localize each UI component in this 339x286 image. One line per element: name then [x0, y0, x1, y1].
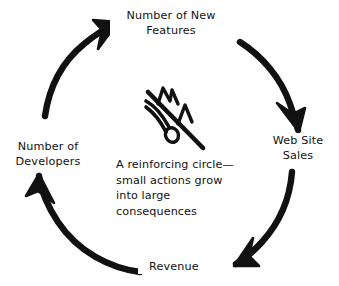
diagram-canvas: Number of New Features Web Site Sales Re… [0, 0, 339, 286]
arrow-developers-to-features [45, 20, 118, 116]
arrow-sales-to-revenue [234, 172, 292, 266]
node-label-number-of-developers: Number of Developers [6, 139, 90, 169]
center-caption: A reinforcing circle— small actions grow… [116, 157, 230, 219]
caption-line-4: consequences [116, 204, 230, 220]
node-label-revenue: Revenue [138, 259, 210, 274]
node-label-web-site-sales: Web Site Sales [262, 133, 334, 163]
arrow-features-to-sales [240, 42, 305, 132]
snowball-rolling-downhill-icon [146, 88, 203, 148]
caption-line-2: small actions grow [116, 173, 230, 189]
node-label-new-features: Number of New Features [110, 8, 232, 38]
caption-line-1: A reinforcing circle— [116, 157, 230, 173]
caption-line-3: into large [116, 188, 230, 204]
